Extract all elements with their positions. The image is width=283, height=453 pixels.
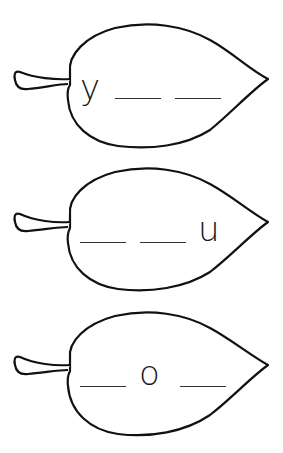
blank-slot-2[interactable] xyxy=(140,242,186,243)
letter-u: u xyxy=(198,212,220,246)
letter-y: y xyxy=(80,70,100,104)
leaf-2: u xyxy=(0,150,283,300)
leaf-1: y xyxy=(0,0,283,150)
letter-o: o xyxy=(139,356,160,390)
blank-slot-3[interactable] xyxy=(175,98,221,99)
leaf-worksheet: y u o xyxy=(0,0,283,453)
blank-slot-3[interactable] xyxy=(180,386,226,387)
blank-slot-1[interactable] xyxy=(80,386,126,387)
leaf-3: o xyxy=(0,300,283,450)
leaf-outline-icon xyxy=(0,150,283,300)
blank-slot-1[interactable] xyxy=(80,242,126,243)
blank-slot-2[interactable] xyxy=(115,98,161,99)
leaf-outline-icon xyxy=(0,0,283,150)
